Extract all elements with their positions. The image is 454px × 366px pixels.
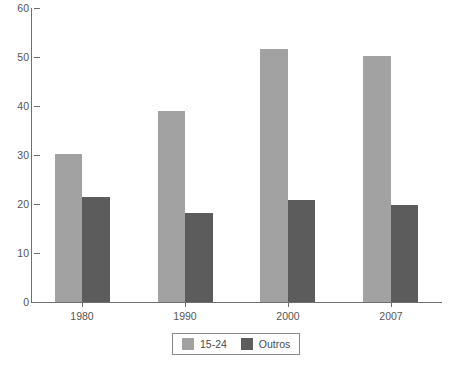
y-tick-label: 30 — [0, 147, 29, 163]
x-tick-label: 2000 — [258, 310, 318, 322]
bar-chart: 0102030405060 1980199020002007 15-24Outr… — [0, 0, 454, 366]
y-tick-mark — [34, 57, 40, 58]
y-tick-label: 0 — [0, 294, 29, 310]
x-tick-mark — [391, 302, 392, 307]
x-tick-label: 1980 — [52, 310, 112, 322]
bar-outros-1980 — [82, 197, 110, 302]
y-tick-mark — [34, 155, 40, 156]
y-axis-tick: 10 — [0, 253, 40, 254]
legend-label: Outros — [259, 338, 291, 350]
y-tick-label: 10 — [0, 245, 29, 261]
x-axis-line — [31, 302, 442, 303]
legend-swatch-icon — [241, 338, 253, 350]
y-axis-tick: 20 — [0, 204, 40, 205]
y-tick-mark — [34, 106, 40, 107]
legend-item-outros: Outros — [241, 338, 291, 350]
y-axis-tick: 30 — [0, 155, 40, 156]
y-axis-tick: 0 — [0, 302, 40, 303]
legend-item-15-24: 15-24 — [182, 338, 227, 350]
x-tick-label: 2007 — [361, 310, 421, 322]
bar-outros-2007 — [391, 205, 419, 302]
bar-15-24-1990 — [158, 111, 186, 302]
bar-outros-2000 — [288, 200, 316, 302]
x-tick-mark — [288, 302, 289, 307]
y-tick-mark — [34, 302, 40, 303]
legend-label: 15-24 — [200, 338, 227, 350]
x-tick-mark — [82, 302, 83, 307]
y-axis-tick: 60 — [0, 8, 40, 9]
bar-15-24-1980 — [55, 154, 83, 302]
y-tick-mark — [34, 253, 40, 254]
y-tick-mark — [34, 204, 40, 205]
chart-legend: 15-24Outros — [172, 333, 300, 355]
legend-swatch-icon — [182, 338, 194, 350]
y-tick-label: 20 — [0, 196, 29, 212]
x-tick-mark — [185, 302, 186, 307]
y-tick-label: 60 — [0, 0, 29, 16]
bar-outros-1990 — [185, 213, 213, 302]
y-axis-tick: 40 — [0, 106, 40, 107]
y-tick-label: 40 — [0, 98, 29, 114]
y-tick-label: 50 — [0, 49, 29, 65]
x-tick-label: 1990 — [155, 310, 215, 322]
y-axis-tick: 50 — [0, 57, 40, 58]
y-tick-mark — [34, 8, 40, 9]
bar-15-24-2007 — [363, 56, 391, 302]
bar-15-24-2000 — [260, 49, 288, 302]
